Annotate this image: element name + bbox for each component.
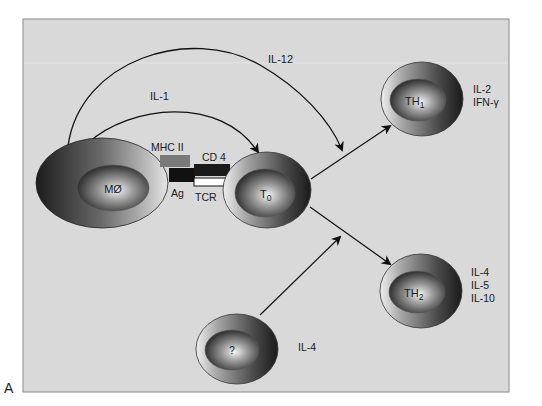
tcr-label: TCR [195,191,217,203]
cd4-label: CD 4 [202,151,226,163]
th2-cytokine-il4: IL-4 [471,266,489,278]
unknown-cell: ? [196,314,278,384]
th2-cytokine-il5: IL-5 [471,279,489,291]
mhc2-label: MHC II [151,141,184,153]
unknown-cell-cytokine: IL-4 [298,341,316,353]
th1-cell: TH1 [381,62,463,136]
il12-label: IL-12 [268,53,293,65]
macrophage-cell: MØ [36,138,168,228]
th2-cell: TH2 [380,254,462,328]
t0-cell: T0 [223,152,311,228]
th1-cytokine-ifng: IFN-γ [473,96,499,108]
th1-cytokine-il2: IL-2 [473,83,491,95]
panel-letter: A [4,380,14,396]
macrophage-label: MØ [104,183,122,195]
antigen-label: Ag [171,187,184,199]
il1-label: IL-1 [150,90,169,102]
mhc2-bar [160,155,190,167]
diagram-figure: A IL-12 IL-1 MØ MHC II Ag CD 4 TCR T0 TH… [0,0,542,406]
antigen-bar [169,168,195,182]
th2-cytokine-il10: IL-10 [471,292,495,304]
cd4-bar [194,164,230,176]
unknown-cell-label: ? [229,345,235,356]
